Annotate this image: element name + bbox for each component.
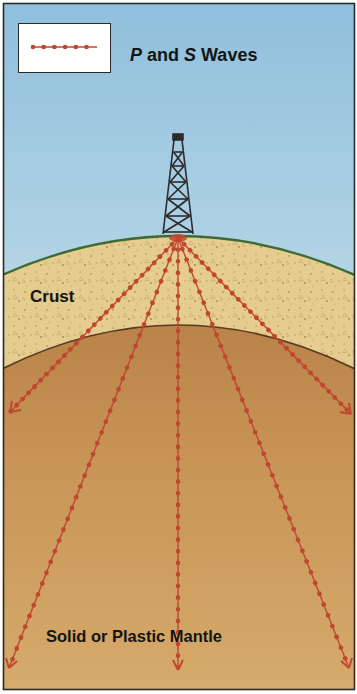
- seismic-wave-diagram: [0, 0, 357, 694]
- mantle-label: Solid or Plastic Mantle: [46, 627, 222, 646]
- legend-label: P and S Waves: [130, 45, 257, 66]
- crust-label: Crust: [30, 287, 74, 307]
- legend-label-s: S: [184, 45, 196, 65]
- legend-box: [18, 23, 111, 73]
- legend-label-and: and: [142, 45, 184, 65]
- legend-label-waves: Waves: [196, 45, 257, 65]
- legend-wave-symbol-icon: [19, 24, 109, 71]
- wave-source: [169, 234, 187, 242]
- legend-label-p: P: [130, 45, 142, 65]
